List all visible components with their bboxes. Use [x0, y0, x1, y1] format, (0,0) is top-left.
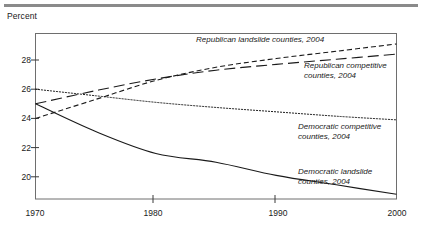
annotation-line-2: counties, 2004: [298, 132, 350, 141]
series-annotation-democratic-landslide: Democratic landslide counties, 2004: [298, 167, 372, 186]
annotation-line-2: counties, 2004: [304, 71, 356, 80]
series-annotation-democratic-competitive: Democratic competitive counties, 2004: [298, 122, 381, 141]
annotation-line-1: Democratic competitive: [298, 122, 381, 131]
annotation-line-2: counties, 2004: [298, 177, 350, 186]
chart-figure: Percent 28 26 24 22 20 1970 1980 1990 20…: [0, 0, 422, 236]
annotation-line-1: Republican landslide counties, 2004: [196, 35, 324, 44]
annotation-line-1: Republican competitive: [304, 61, 387, 70]
series-annotation-republican-competitive: Republican competitive counties, 2004: [304, 61, 387, 80]
series-line-2: [36, 89, 397, 120]
annotation-line-1: Democratic landslide: [298, 167, 372, 176]
series-annotation-republican-landslide: Republican landslide counties, 2004: [196, 35, 324, 45]
